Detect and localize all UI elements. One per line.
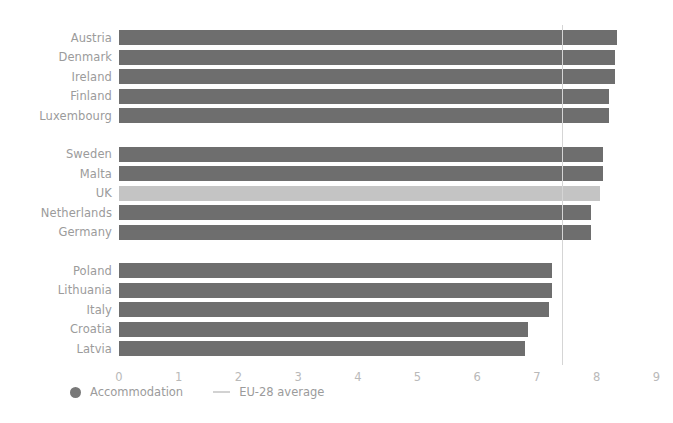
category-label-poland: Poland (0, 264, 112, 279)
bar-latvia[interactable] (119, 341, 525, 356)
bar-italy[interactable] (119, 302, 549, 317)
legend-item-accommodation[interactable]: Accommodation (70, 385, 183, 399)
plot-area: AustriaDenmarkIrelandFinlandLuxembourgSw… (0, 0, 673, 423)
bar-germany[interactable] (119, 225, 591, 240)
bar-austria[interactable] (119, 30, 617, 45)
category-label-netherlands: Netherlands (0, 206, 112, 221)
category-label-croatia: Croatia (0, 322, 112, 337)
category-label-luxembourg: Luxembourg (0, 109, 112, 124)
bar-malta[interactable] (119, 166, 603, 181)
category-label-uk: UK (0, 186, 112, 201)
x-tick-6: 6 (462, 370, 492, 384)
category-label-italy: Italy (0, 303, 112, 318)
bar-lithuania[interactable] (119, 283, 552, 298)
bar-denmark[interactable] (119, 50, 615, 65)
line-marker-icon (213, 391, 230, 393)
category-label-austria: Austria (0, 31, 112, 46)
legend-label-eu28-average: EU-28 average (239, 385, 324, 399)
x-tick-1: 1 (164, 370, 194, 384)
x-tick-5: 5 (403, 370, 433, 384)
category-label-germany: Germany (0, 225, 112, 240)
x-tick-9: 9 (641, 370, 671, 384)
bar-sweden[interactable] (119, 147, 603, 162)
x-tick-7: 7 (522, 370, 552, 384)
category-label-sweden: Sweden (0, 147, 112, 162)
bar-finland[interactable] (119, 89, 609, 104)
x-tick-2: 2 (223, 370, 253, 384)
bar-uk[interactable] (119, 186, 600, 201)
x-tick-3: 3 (283, 370, 313, 384)
bar-ireland[interactable] (119, 69, 615, 84)
bar-croatia[interactable] (119, 322, 528, 337)
bar-poland[interactable] (119, 263, 552, 278)
eu28-average-reference-line (562, 25, 564, 365)
bar-netherlands[interactable] (119, 205, 591, 220)
legend-label-accommodation: Accommodation (90, 385, 183, 399)
x-tick-8: 8 (582, 370, 612, 384)
x-tick-4: 4 (343, 370, 373, 384)
bar-luxembourg[interactable] (119, 108, 609, 123)
category-label-finland: Finland (0, 89, 112, 104)
x-tick-0: 0 (104, 370, 134, 384)
legend-item-eu28-average[interactable]: EU-28 average (213, 385, 324, 399)
category-label-latvia: Latvia (0, 342, 112, 357)
category-label-malta: Malta (0, 167, 112, 182)
bar-chart: AustriaDenmarkIrelandFinlandLuxembourgSw… (0, 0, 673, 423)
category-label-lithuania: Lithuania (0, 283, 112, 298)
category-label-ireland: Ireland (0, 70, 112, 85)
chart-legend: Accommodation EU-28 average (70, 385, 324, 399)
category-label-denmark: Denmark (0, 50, 112, 65)
circle-marker-icon (70, 387, 81, 398)
